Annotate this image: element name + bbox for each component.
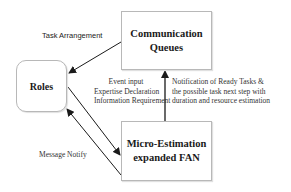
information-requirement-text: Information Requirement [94, 96, 158, 106]
event-input-text: Event input [94, 77, 158, 87]
communication-queues-line1: Communication [130, 27, 202, 41]
micro-estimation-line2: expanded FAN [127, 151, 207, 165]
notification-line2: the possible task next step with [172, 87, 270, 97]
roles-to-fan-label: Event input Expertise Declaration Inform… [94, 77, 158, 106]
micro-estimation-node: Micro-Estimation expanded FAN [121, 121, 212, 181]
expertise-declaration-text: Expertise Declaration [94, 87, 158, 97]
notification-line1: Notification of Ready Tasks & [172, 77, 270, 87]
fan-to-queues-label: Notification of Ready Tasks & the possib… [172, 77, 270, 106]
diagram-canvas: Communication Queues Roles Micro-Estimat… [0, 0, 291, 192]
micro-estimation-line1: Micro-Estimation [127, 137, 207, 151]
arrow-message-notify [67, 109, 121, 175]
roles-label: Roles [30, 81, 53, 92]
communication-queues-node: Communication Queues [121, 11, 212, 70]
notification-line3: duration and resource estimation [172, 96, 270, 106]
roles-node: Roles [16, 60, 67, 112]
arrow-task-arrangement [69, 42, 121, 73]
message-notify-label: Message Notify [39, 150, 87, 160]
task-arrangement-label: Task Arrangement [42, 31, 102, 41]
communication-queues-line2: Queues [130, 41, 202, 55]
